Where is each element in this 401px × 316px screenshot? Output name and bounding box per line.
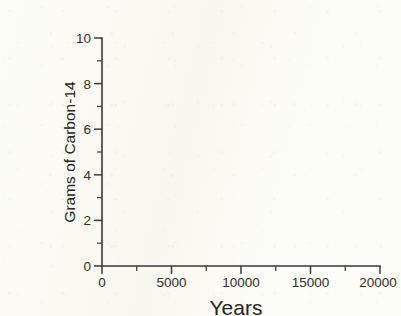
y-tick-label-10: 10 xyxy=(76,31,91,46)
x-tick-label-15000: 15000 xyxy=(292,275,330,290)
x-axis-title: Years xyxy=(210,296,263,316)
plot-svg: 0 2 4 6 8 10 0 5000 10000 15000 2000 xyxy=(40,16,401,316)
x-tick-label-20000: 20000 xyxy=(359,275,397,290)
y-tick-label-2: 2 xyxy=(83,213,91,228)
y-tick-label-6: 6 xyxy=(83,122,91,137)
y-axis-title: Grams of Carbon-14 xyxy=(61,81,78,223)
y-axis-ticks xyxy=(94,38,102,266)
y-tick-label-8: 8 xyxy=(83,77,91,92)
y-tick-label-0: 0 xyxy=(83,259,91,274)
x-axis-ticks xyxy=(102,266,380,274)
y-tick-label-4: 4 xyxy=(83,168,91,183)
carbon-14-decay-chart: 0 2 4 6 8 10 0 5000 10000 15000 2000 xyxy=(40,16,344,300)
x-tick-label-5000: 5000 xyxy=(156,275,186,290)
plot-area xyxy=(102,38,380,266)
x-tick-label-0: 0 xyxy=(98,275,106,290)
x-tick-label-10000: 10000 xyxy=(222,275,260,290)
y-axis-tick-labels: 0 2 4 6 8 10 xyxy=(76,31,92,274)
x-axis-tick-labels: 0 5000 10000 15000 20000 xyxy=(98,275,397,290)
